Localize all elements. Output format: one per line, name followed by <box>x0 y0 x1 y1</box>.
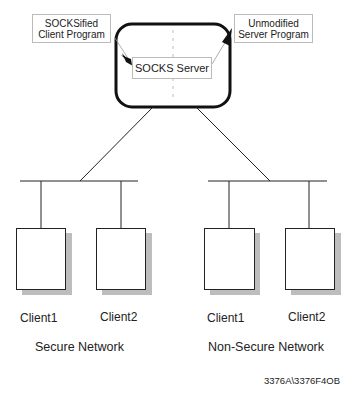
uplink-secure <box>80 107 153 181</box>
nonsecure-client2-box <box>286 229 335 290</box>
unmodified-server-line2: Server Program <box>238 29 309 40</box>
secure-network-label: Secure Network <box>35 340 124 354</box>
secure-client1-box <box>17 229 66 290</box>
figure-id: 3376A\3376F4OB <box>264 375 340 386</box>
unmodified-server-box: Unmodified Server Program <box>234 14 313 43</box>
secure-client2-label: Client2 <box>100 310 137 324</box>
nonsecure-network-label: Non-Secure Network <box>208 340 324 354</box>
nonsecure-client1-label: Client1 <box>207 311 244 325</box>
socks-server-box: SOCKS Server <box>132 57 212 79</box>
socksified-client-line1: SOCKSified <box>45 18 98 29</box>
socksified-client-box: SOCKSified Client Program <box>32 14 111 43</box>
socks-server-label: SOCKS Server <box>135 63 209 74</box>
unmodified-server-line1: Unmodified <box>248 18 299 29</box>
nonsecure-client2-label: Client2 <box>288 310 325 324</box>
secure-client1-label: Client1 <box>20 311 57 325</box>
secure-client2-box <box>97 229 146 290</box>
socksified-client-line2: Client Program <box>38 29 105 40</box>
nonsecure-client1-box <box>205 229 255 290</box>
uplink-nonsecure <box>196 107 270 181</box>
